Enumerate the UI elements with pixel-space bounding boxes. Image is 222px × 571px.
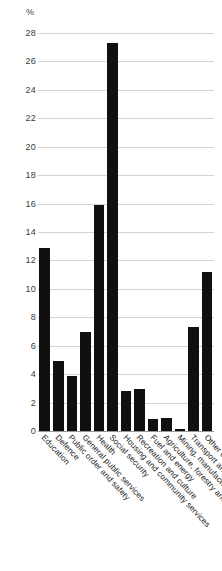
y-axis-tick-label: 20	[4, 142, 36, 152]
bar	[175, 429, 186, 431]
axis-baseline	[38, 431, 214, 432]
bar	[161, 418, 172, 432]
bar	[202, 272, 213, 431]
y-axis-tick-label: 2	[4, 398, 36, 408]
y-axis-tick-label: 28	[4, 28, 36, 38]
y-axis-tick-label: 8	[4, 312, 36, 322]
bar	[134, 389, 145, 431]
y-axis-tick-label: 14	[4, 227, 36, 237]
bars-group	[38, 33, 214, 431]
y-axis-tick-label: 10	[4, 284, 36, 294]
y-axis-tick-label: 18	[4, 170, 36, 180]
y-axis-tick-label: 6	[4, 341, 36, 351]
y-axis-tick-label: 12	[4, 255, 36, 265]
y-axis-tick-label: 4	[4, 369, 36, 379]
bar	[188, 327, 199, 431]
bar	[67, 376, 78, 431]
y-axis-tick-label: 16	[4, 199, 36, 209]
bar	[107, 43, 118, 431]
bar	[39, 248, 50, 431]
y-axis-tick-label: 24	[4, 85, 36, 95]
bar	[148, 419, 159, 431]
x-axis-labels: EducationDefencePublic order and safetyG…	[38, 433, 214, 571]
y-axis-tick-label: 26	[4, 56, 36, 66]
bar	[121, 391, 132, 432]
y-axis-unit-label: %	[26, 7, 34, 17]
bar	[94, 205, 105, 431]
bar	[53, 361, 64, 431]
bar-chart: % 0246810121416182022242628 EducationDef…	[0, 0, 222, 571]
y-axis-ticks: 0246810121416182022242628	[0, 33, 36, 431]
y-axis-tick-label: 22	[4, 113, 36, 123]
bar	[80, 332, 91, 432]
y-axis-tick-label: 0	[4, 426, 36, 436]
